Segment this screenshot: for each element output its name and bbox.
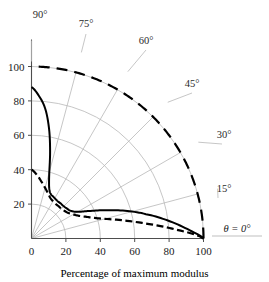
x-tick-label: 80 — [164, 245, 176, 257]
polar-chart: 020406080100 20406080100 90°75°60°45°30°… — [0, 0, 269, 282]
x-tick-label: 20 — [60, 245, 72, 257]
x-tick-label: 0 — [29, 245, 35, 257]
angle-label: 60° — [139, 35, 154, 46]
x-axis-caption-text: Percentage of maximum modulus — [60, 267, 208, 279]
y-tick-label: 60 — [14, 129, 26, 141]
angle-label: 45° — [185, 78, 200, 89]
y-tick-label: 100 — [8, 61, 25, 73]
y-tick-label: 40 — [14, 164, 26, 176]
chart-svg: 020406080100 20406080100 90°75°60°45°30°… — [0, 0, 269, 282]
angle-label: θ = 0° — [224, 223, 252, 234]
angle-label: 30° — [217, 129, 232, 140]
angle-label: 75° — [79, 18, 94, 29]
x-tick-label: 40 — [95, 245, 107, 257]
x-tick-label: 60 — [129, 245, 141, 257]
y-tick-label: 20 — [14, 198, 26, 210]
angle-label: 15° — [217, 183, 232, 194]
x-tick-label: 100 — [195, 245, 212, 257]
x-axis-caption: Percentage of maximum modulus — [0, 263, 269, 281]
y-tick-label: 80 — [14, 95, 26, 107]
angle-label: 90° — [33, 9, 48, 20]
